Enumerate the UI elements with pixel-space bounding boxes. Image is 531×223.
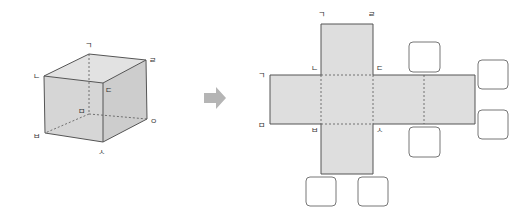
net-middle-strip [270,75,475,124]
cube-label-r: ㄹ [149,56,156,65]
net-label-mid-right-bottom: ㅅ [376,126,383,135]
cube-label-m: ㅁ [78,107,85,116]
cube-label-o: ㅇ [150,117,157,126]
cube-net-figure: ㄱ ㄴ ㄷ ㄹ ㅁ ㅂ ㅅ ㅇ ㄱ ㄹ ㄴ ㄷ ㄱ ㅁ ㅂ [0,0,531,223]
right-arrow-icon [204,87,226,109]
cube-label-n: ㄴ [33,72,40,81]
net-label-strip-left-top: ㄱ [258,71,265,80]
cube-label-s: ㅅ [98,148,105,157]
cube-label-b: ㅂ [33,132,40,141]
cube-label-g: ㄱ [85,41,92,50]
cube-front-face [44,76,103,142]
net-label-top-left: ㄱ [318,10,325,19]
net-label-mid-left-bottom: ㅂ [311,126,318,135]
cube-label-d: ㄷ [105,86,112,95]
net-label-strip-left-bottom: ㅁ [258,121,265,130]
net-label-top-right: ㄹ [368,10,375,19]
net-label-mid-right-top: ㄷ [376,64,383,73]
cube-diagram: ㄱ ㄴ ㄷ ㄹ ㅁ ㅂ ㅅ ㅇ [33,41,157,157]
answer-box-under-strip[interactable] [409,127,440,157]
answer-box-bottom-right[interactable] [358,177,388,206]
answer-box-bottom-left[interactable] [306,177,336,206]
answer-box-right-top[interactable] [478,60,508,89]
net-bottom-flap [321,124,373,174]
cube-net: ㄱ ㄹ ㄴ ㄷ ㄱ ㅁ ㅂ ㅅ [258,10,508,206]
answer-box-right-bottom[interactable] [478,110,508,139]
net-top-flap [321,24,373,75]
net-label-mid-left-top: ㄴ [311,64,318,73]
answer-box-top[interactable] [409,42,440,72]
